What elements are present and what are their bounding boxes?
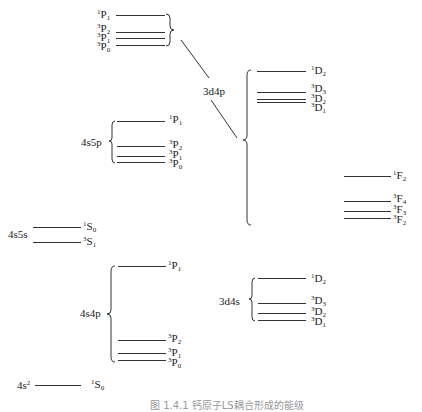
- brace-4s5p: [109, 121, 115, 163]
- connector-3d4p-upper: [181, 40, 209, 78]
- brace-4s4p: [107, 266, 115, 362]
- figure-caption: 图 1.4.1 钙原子LS耦合形成的能级: [150, 397, 304, 412]
- brace-3d4p-P: [166, 14, 174, 46]
- connector-3d4p-lower: [211, 100, 237, 138]
- brace-3d4s: [249, 278, 255, 321]
- brace-3d4p-DF: [243, 70, 251, 225]
